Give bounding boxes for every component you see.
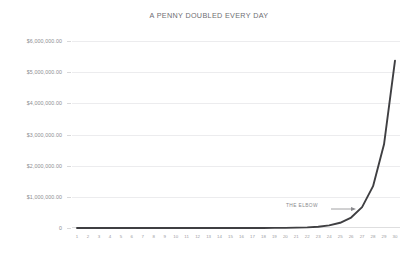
elbow-annotation-label: THE ELBOW <box>286 203 318 208</box>
data-series-line <box>0 0 418 265</box>
penny-doubled-curve <box>77 61 395 228</box>
chart-figure: A PENNY DOUBLED EVERY DAY $6,000,000.00$… <box>0 0 418 265</box>
elbow-arrow-icon <box>331 206 357 212</box>
